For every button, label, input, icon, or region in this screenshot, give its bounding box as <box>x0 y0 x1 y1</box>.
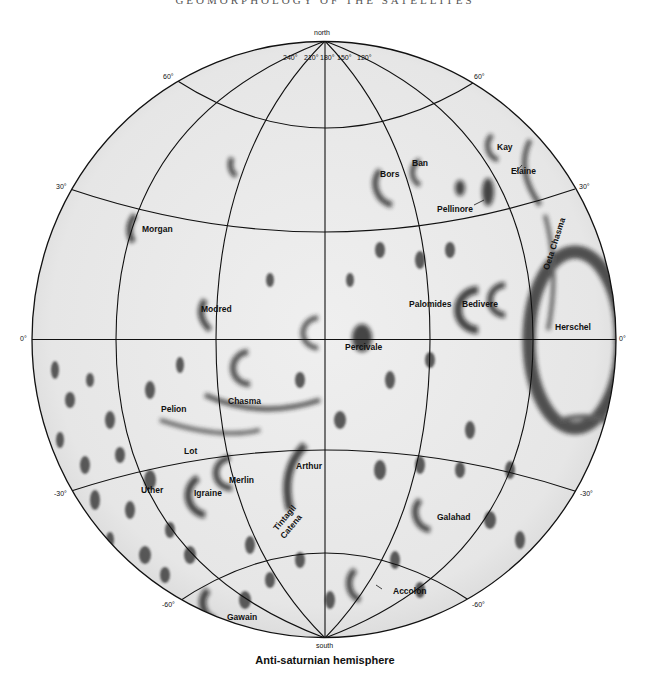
feature-label-merlin: Merlin <box>229 475 254 485</box>
latitude-label-30s-left: -30° <box>54 490 67 497</box>
feature-label-modred: Modred <box>201 304 232 314</box>
latitude-label-60n-left: 60° <box>163 73 174 80</box>
feature-label-ban: Ban <box>412 158 428 168</box>
south-pole-label: south <box>316 642 333 649</box>
feature-label-pellinore: Pellinore <box>437 204 473 214</box>
latitude-label-60s-left: -60° <box>162 601 175 608</box>
latitude-label-0-left: 0° <box>20 335 27 342</box>
latitude-label-30n-left: 30° <box>56 183 67 190</box>
feature-label-uther: Uther <box>141 485 163 495</box>
longitude-label-120: 120° <box>357 54 371 61</box>
feature-label-chasma: Chasma <box>228 396 261 406</box>
feature-label-lot: Lot <box>184 446 197 456</box>
longitude-label-210: 210° <box>304 54 318 61</box>
feature-label-galahad: Galahad <box>437 512 471 522</box>
feature-label-morgan: Morgan <box>142 224 173 234</box>
latitude-label-0-right: 0° <box>619 335 626 342</box>
longitude-label-150: 150° <box>337 54 351 61</box>
feature-label-bedivere: Bedivere <box>462 299 498 309</box>
feature-label-gawain: Gawain <box>227 612 257 622</box>
map-caption: Anti-saturnian hemisphere <box>0 654 650 666</box>
feature-label-percivale: Percivale <box>345 342 382 352</box>
feature-label-accolon: Accolon <box>393 586 427 596</box>
latitude-label-60s-right: -60° <box>472 601 485 608</box>
feature-label-elaine: Elaine <box>511 166 536 176</box>
longitude-label-240: 240° <box>283 54 297 61</box>
feature-label-arthur: Arthur <box>296 461 322 471</box>
north-pole-label: north <box>314 29 330 36</box>
latitude-label-30s-right: -30° <box>580 490 593 497</box>
feature-label-kay: Kay <box>497 142 513 152</box>
feature-label-bors: Bors <box>380 169 399 179</box>
latitude-label-60n-right: 60° <box>474 73 485 80</box>
feature-label-palomides: Palomides <box>409 299 452 309</box>
hemisphere-map <box>0 0 650 680</box>
feature-label-herschel: Herschel <box>555 322 591 332</box>
longitude-label-180: 180° <box>320 54 334 61</box>
feature-label-igraine: Igraine <box>194 488 222 498</box>
feature-label-pelion: Pelion <box>161 404 187 414</box>
latitude-label-30n-right: 30° <box>579 183 590 190</box>
